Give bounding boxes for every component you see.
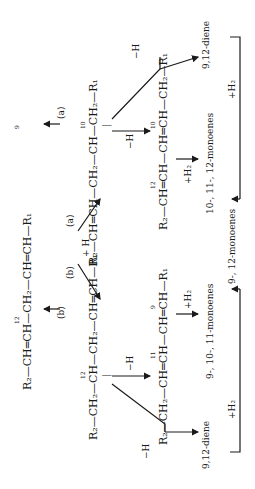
plus-h2-diene-a: +H₂: [226, 80, 238, 99]
arrows-layer: [0, 0, 255, 489]
path-a-label: (a): [64, 215, 76, 227]
plus-h2-a: +H₂: [182, 165, 194, 184]
reaction-scheme: R₂—CH═CH—CH₂—CH═CH—R₁ 12 9 (a) (b) + H (…: [0, 0, 255, 489]
plus-h2-diene-b: +H₂: [226, 400, 238, 419]
diene-b: 9,12-diene: [200, 421, 212, 469]
monoenes-a: 10-, 11-, 12-monoenes: [204, 113, 216, 214]
conjugated-a: R₂—CH═CH—CH═CH—CH₂—R₁: [158, 53, 170, 230]
position-9-label: 9: [14, 125, 20, 129]
minus-h-diene-b: −H: [140, 444, 152, 459]
radical-b-mark: |: [100, 374, 112, 377]
conjugated-b-position-9: 9: [150, 305, 156, 309]
radical-a: R₂—CH═CH—CH₂—CH—CH₂—R₁: [88, 79, 100, 265]
radical-a-mark: |: [100, 124, 112, 127]
starting-molecule: R₂—CH═CH—CH₂—CH═CH—R₁: [22, 213, 34, 390]
radical-a-position: 10: [80, 121, 86, 129]
attack-a-label: (a): [55, 107, 67, 119]
minus-h-b: −H: [124, 356, 136, 371]
position-12-label: 12: [14, 316, 20, 324]
plus-h2-b: +H₂: [182, 290, 194, 309]
path-b-label: (b): [64, 266, 76, 279]
minus-h-a: −H: [124, 134, 136, 149]
conjugated-b: R₂—CH₂—CH═CH—CH═CH—R₁: [158, 268, 170, 445]
attack-b-label: (b): [55, 306, 67, 319]
conjugated-a-position-12: 12: [150, 181, 156, 189]
conjugated-a-position-10: 10: [150, 121, 156, 129]
diene-a: 9,12-diene: [200, 21, 212, 69]
radical-b-position: 12: [80, 371, 86, 379]
radical-b: R₂—CH₂—CH—CH₂—CH═CH—R₁: [88, 254, 100, 440]
final-product: 9-, 12-monoenes: [226, 209, 238, 284]
conjugated-b-position-11: 11: [150, 351, 156, 359]
monoenes-b: 9-, 10-, 11-monoenes: [204, 284, 216, 379]
minus-h-diene-a: −H: [130, 44, 142, 59]
